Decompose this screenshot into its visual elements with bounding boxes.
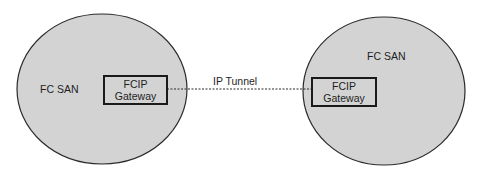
right-gateway-line1: FCIP (332, 80, 356, 92)
ip-tunnel-label: IP Tunnel (213, 75, 257, 87)
right-gateway-line2: Gateway (323, 92, 364, 104)
left-fcip-gateway: FCIP Gateway (103, 75, 168, 105)
left-gateway-line1: FCIP (124, 78, 148, 90)
right-fcip-gateway: FCIP Gateway (311, 77, 377, 107)
left-gateway-line2: Gateway (115, 90, 156, 102)
left-san-label: FC SAN (40, 83, 79, 95)
right-san-label: FC SAN (367, 50, 406, 62)
